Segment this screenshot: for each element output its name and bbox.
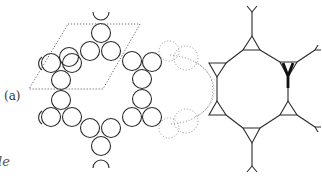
panel-label: (a) [4,89,21,103]
dotted-transition [159,41,214,138]
triangle-network [209,6,321,172]
lattice-diagram [0,0,322,179]
highlighted-y-vertex [283,63,293,88]
circle-lattice [39,12,162,168]
cropped-edge-text: le [0,154,10,169]
